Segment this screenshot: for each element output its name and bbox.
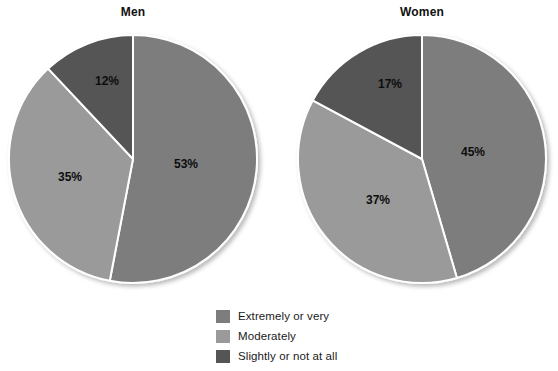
- chart-legend: Extremely or very Moderately Slightly or…: [216, 306, 446, 366]
- men-slice-label-53: 53%: [174, 157, 198, 171]
- legend-swatch-extremely-or-very: [216, 310, 230, 323]
- men-pie: [9, 35, 257, 283]
- women-slice-label-37: 37%: [366, 193, 390, 207]
- legend-label-extremely-or-very: Extremely or very: [238, 310, 329, 323]
- men-slice-label-12: 12%: [95, 74, 119, 88]
- legend-label-slightly-or-not-at-all: Slightly or not at all: [238, 350, 337, 363]
- pie-chart-figure: Men Women 53%35%12%45%37%17% Extremely o…: [0, 0, 558, 371]
- women-pie: [298, 35, 546, 283]
- legend-item-slightly-or-not-at-all: Slightly or not at all: [216, 346, 446, 366]
- legend-item-extremely-or-very: Extremely or very: [216, 306, 446, 326]
- legend-swatch-moderately: [216, 330, 230, 343]
- women-slice-label-17: 17%: [378, 77, 402, 91]
- legend-label-moderately: Moderately: [238, 330, 296, 343]
- men-slice-label-35: 35%: [58, 170, 82, 184]
- women-slice-label-45: 45%: [461, 145, 485, 159]
- legend-item-moderately: Moderately: [216, 326, 446, 346]
- legend-swatch-slightly-or-not-at-all: [216, 350, 230, 363]
